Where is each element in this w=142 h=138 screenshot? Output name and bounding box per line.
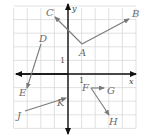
point-label-f: F — [81, 82, 90, 93]
point-label-g: G — [107, 85, 115, 96]
point-label-c: C — [46, 7, 54, 18]
point-label-d: D — [38, 33, 47, 44]
point-label-h: H — [108, 116, 118, 127]
y-tick-label-1: 1 — [60, 56, 65, 65]
vector-ab — [82, 19, 129, 44]
point-label-a: A — [78, 47, 86, 58]
coordinate-grid: x y 1 1 ABCDEJKFGH — [0, 0, 142, 138]
x-axis-label: x — [129, 77, 134, 86]
coordinate-plane-diagram: x y 1 1 ABCDEJKFGH — [0, 0, 142, 138]
vector-de — [27, 44, 41, 88]
point-label-j: J — [15, 110, 22, 121]
point-label-k: K — [56, 97, 65, 108]
point-label-e: E — [18, 87, 27, 98]
grid-lines — [14, 6, 136, 128]
y-axis-label: y — [71, 4, 77, 13]
point-label-b: B — [131, 8, 139, 19]
